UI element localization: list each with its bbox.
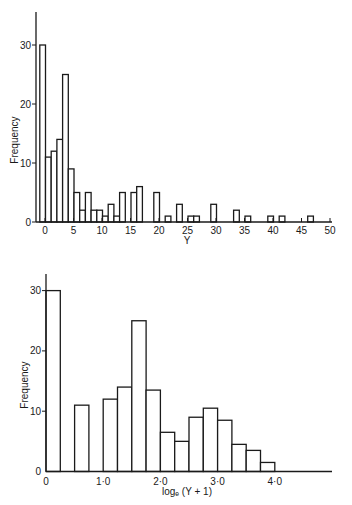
y-tick-label: 0	[25, 217, 31, 228]
histogram-bar	[74, 193, 80, 223]
x-axis-title: Y	[184, 235, 191, 246]
histogram-bar	[40, 45, 46, 222]
histogram-bar	[165, 216, 171, 222]
x-tick-label: 0	[42, 225, 48, 236]
histogram-bar	[203, 408, 217, 471]
histogram-bar	[118, 387, 132, 471]
y-axis-title: Frequency	[19, 361, 30, 408]
histogram-bar	[120, 193, 126, 223]
y-tick-label: 20	[30, 345, 42, 356]
histogram-bar	[103, 216, 109, 222]
histogram-bar	[261, 462, 275, 471]
x-tick-label: 10	[96, 225, 108, 236]
y-tick-label: 20	[20, 99, 32, 110]
y-tick-label: 30	[30, 285, 42, 296]
x-tick-label: 50	[324, 225, 336, 236]
histogram-bar	[46, 157, 52, 222]
histogram-bar	[175, 441, 189, 471]
histogram-bar	[132, 321, 146, 472]
x-tick-label: 0	[43, 476, 49, 487]
histogram-bar	[85, 193, 91, 223]
x-tick-label: 3·0	[210, 476, 225, 487]
histogram-bar	[137, 187, 143, 222]
x-tick-label: 15	[125, 225, 137, 236]
x-tick-label: 45	[296, 225, 308, 236]
histogram-bar	[57, 139, 63, 222]
histogram-raw-y: 010203005101520253035404550YFrequency	[9, 12, 336, 246]
histogram-bar	[108, 204, 114, 222]
y-tick-label: 0	[35, 466, 41, 477]
x-axis-title: logₑ (Y + 1)	[162, 486, 212, 497]
y-tick-label: 10	[20, 158, 32, 169]
histogram-bar	[232, 444, 246, 471]
x-tick-label: 35	[239, 225, 251, 236]
histogram-log-y: 010203001·02·03·04·0logₑ (Y + 1)Frequenc…	[19, 274, 332, 497]
y-tick-label: 30	[20, 40, 32, 51]
histogram-bar	[91, 210, 97, 222]
histogram-bar	[46, 291, 60, 472]
x-tick-label: 20	[153, 225, 165, 236]
x-tick-label: 30	[210, 225, 222, 236]
histogram-bar	[114, 216, 120, 222]
histogram-bar	[279, 216, 285, 222]
histogram-bar	[51, 151, 57, 222]
histogram-bar	[218, 420, 232, 471]
histogram-bar	[246, 450, 260, 471]
histogram-bar	[160, 432, 174, 471]
histogram-bar	[103, 399, 117, 471]
histogram-bar	[131, 193, 137, 223]
y-axis-title: Frequency	[9, 116, 20, 163]
histogram-bar	[154, 193, 160, 223]
x-tick-label: 2·0	[153, 476, 168, 487]
figure: 010203005101520253035404550YFrequency 01…	[0, 0, 352, 505]
histogram-bar	[146, 390, 160, 471]
histogram-bar	[177, 204, 183, 222]
y-tick-label: 10	[30, 406, 42, 417]
histogram-bar	[234, 210, 240, 222]
histogram-bar	[194, 216, 200, 222]
x-tick-label: 4·0	[268, 476, 283, 487]
histogram-bar	[188, 216, 194, 222]
histogram-bar	[75, 405, 89, 471]
histogram-bar	[308, 216, 314, 222]
histogram-bar	[63, 75, 69, 223]
x-tick-label: 5	[71, 225, 77, 236]
histogram-bar	[80, 210, 86, 222]
x-tick-label: 1·0	[96, 476, 111, 487]
histogram-bar	[245, 216, 251, 222]
histogram-bar	[68, 169, 74, 222]
x-tick-label: 40	[267, 225, 279, 236]
histogram-bar	[189, 417, 203, 471]
